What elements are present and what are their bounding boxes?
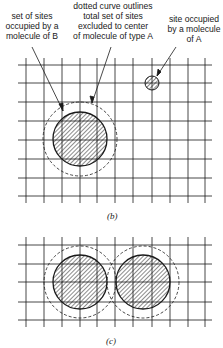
molecule-b-circle-2: [116, 255, 170, 309]
lattice-diagram: [0, 0, 223, 348]
lattice-grid-c: [18, 237, 212, 327]
caption-c: (c): [106, 336, 116, 346]
arrow-sites-b: [32, 47, 63, 111]
molecule-b-circle-1: [53, 255, 107, 309]
molecule-a-site-circle: [145, 76, 159, 90]
caption-b: (b): [107, 211, 118, 221]
arrow-dotted-curve: [92, 47, 111, 103]
lattice-grid-b: [18, 58, 212, 203]
molecule-b-circle: [53, 112, 107, 166]
